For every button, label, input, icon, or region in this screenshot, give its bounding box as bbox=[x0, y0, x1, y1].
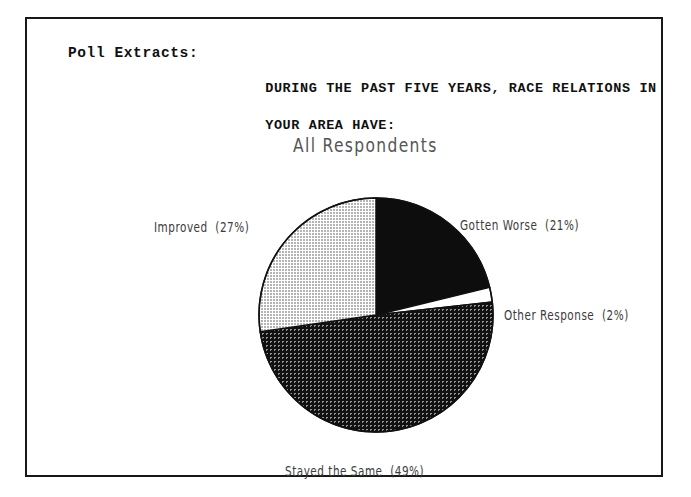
poll-extract-page: Poll Extracts: DURING THE PAST FIVE YEAR… bbox=[0, 0, 691, 497]
poll-question-line-1: DURING THE PAST FIVE YEARS, RACE RELATIO… bbox=[265, 81, 657, 96]
pie-label-other-response: Other Response (2%) bbox=[504, 307, 629, 323]
chart-title: All Respondents bbox=[293, 133, 438, 157]
poll-extracts-label: Poll Extracts: bbox=[68, 44, 198, 62]
pie-label-stayed-the-same: Stayed the Same (49%) bbox=[285, 463, 424, 479]
pie-label-improved: Improved (27%) bbox=[154, 219, 249, 235]
pie-chart-svg bbox=[258, 197, 494, 433]
pie-chart bbox=[258, 197, 494, 433]
poll-question-line-2: YOUR AREA HAVE: bbox=[265, 118, 396, 133]
page-frame: Poll Extracts: DURING THE PAST FIVE YEAR… bbox=[25, 17, 663, 477]
pie-slices bbox=[259, 198, 493, 432]
pie-slice-improved bbox=[259, 198, 376, 332]
